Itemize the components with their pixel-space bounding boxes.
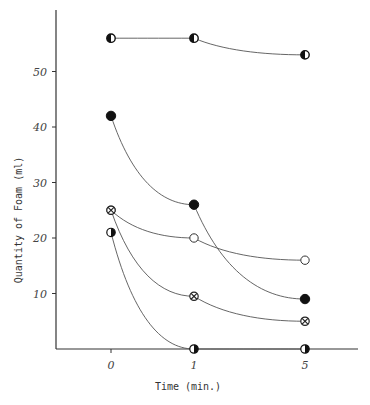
data-point-marker <box>190 292 198 300</box>
y-tick-label: 40 <box>32 121 47 134</box>
series-line <box>111 210 305 260</box>
data-point-marker <box>107 206 115 214</box>
y-axis-label: Quantity of Foam (ml) <box>13 157 24 283</box>
data-point-marker <box>190 234 198 242</box>
x-tick-label: 0 <box>108 359 115 372</box>
data-point-marker <box>190 345 198 353</box>
data-point-marker <box>301 256 309 264</box>
x-tick-label: 1 <box>191 359 198 372</box>
data-point-marker <box>107 34 115 42</box>
y-tick-label: 30 <box>33 177 47 190</box>
data-point-marker <box>189 200 198 209</box>
foam-chart: 1020304050 015 Time (min.) Quantity of F… <box>0 0 370 405</box>
y-tick-label: 10 <box>33 288 47 301</box>
series-line <box>111 210 305 321</box>
y-tick-label: 50 <box>33 66 47 79</box>
series-curves <box>111 38 305 349</box>
series-markers <box>106 34 309 353</box>
series-line <box>111 232 305 349</box>
series-line <box>111 116 305 299</box>
data-point-marker <box>190 34 198 42</box>
y-tick-label: 20 <box>32 232 47 245</box>
data-point-marker <box>301 317 309 325</box>
data-point-marker <box>300 294 309 303</box>
y-ticks: 1020304050 <box>32 66 56 301</box>
data-point-marker <box>106 111 115 120</box>
data-point-marker <box>107 228 115 236</box>
data-point-marker <box>301 345 309 353</box>
x-ticks: 015 <box>108 349 309 372</box>
x-axis-label: Time (min.) <box>155 381 221 392</box>
x-tick-label: 5 <box>302 359 309 372</box>
series-line <box>111 38 305 55</box>
axes <box>56 10 358 349</box>
data-point-marker <box>301 51 309 59</box>
